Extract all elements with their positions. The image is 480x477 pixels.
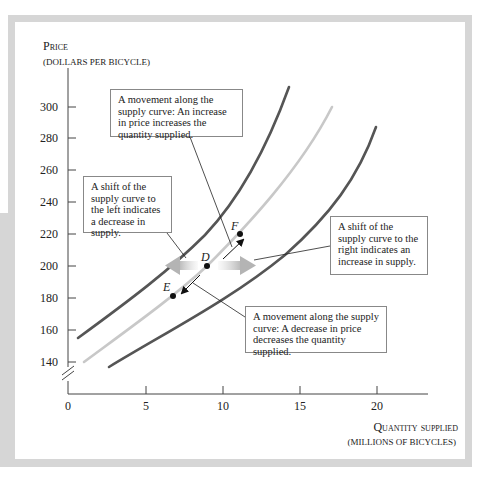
y-tick-label: 300 [30,100,58,115]
point-e-label: E [163,280,170,295]
y-tick-label: 200 [30,259,58,274]
note-shift-right: A shift of the supply curve to the right… [330,216,428,275]
y-axis [62,68,76,394]
y-tick-label: 220 [30,227,58,242]
point-d-label: D [201,250,210,265]
y-axis-subtitle: (DOLLARS PER BICYCLE) [43,57,150,67]
x-tick-label: 10 [213,399,233,414]
x-tick-label: 0 [58,399,78,414]
y-tick-label: 260 [30,163,58,178]
x-tick-label: 20 [367,399,387,414]
y-tick-label: 180 [30,291,58,306]
y-axis-title: Price [43,39,68,54]
y-tick-label: 140 [30,355,58,370]
point-f-label: F [231,219,238,234]
leader-top [190,137,232,247]
y-tick-label: 240 [30,195,58,210]
leader-left [167,233,186,258]
x-tick-label: 5 [136,399,156,414]
y-tick-label: 280 [30,131,58,146]
x-axis-subtitle: (MILLIONS OF BICYCLES) [347,437,456,447]
point-e [170,293,176,299]
x-axis-title: Quantity supplied [373,420,458,435]
x-tick-label: 15 [290,399,310,414]
x-axis [68,386,428,394]
note-increase-price: A movement along the supply curve: An in… [110,89,243,137]
note-decrease-price: A movement along the supply curve: A dec… [245,306,387,353]
y-tick-label: 160 [30,323,58,338]
note-shift-left: A shift of the supply curve to the left … [83,176,172,233]
